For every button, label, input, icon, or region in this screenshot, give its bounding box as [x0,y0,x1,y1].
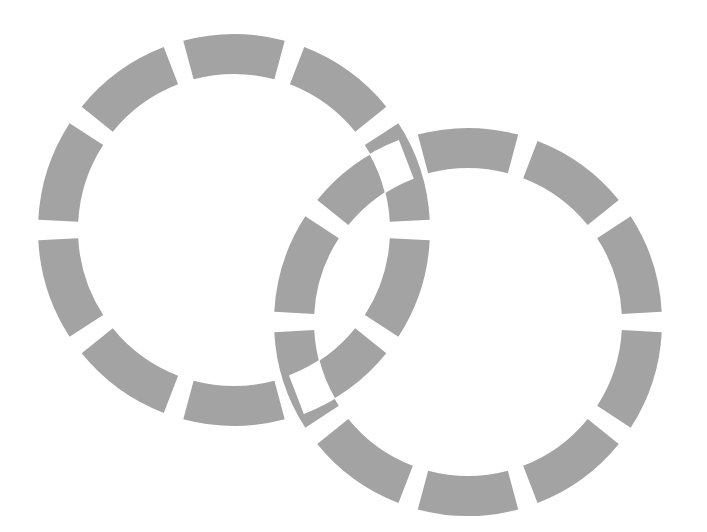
circle-left-dash-10 [82,47,178,132]
circle-right-dash-5 [523,419,619,503]
dashed-circle-right [274,128,661,516]
circle-left-dash-9 [38,123,103,222]
circle-right-dash-1 [418,128,518,173]
overlapping-dashed-circles-diagram [0,0,707,532]
dashed-circle-left [38,34,429,426]
circle-left-dash-1 [183,34,284,79]
circle-right-dash-3 [597,216,662,314]
circle-left-dash-2 [290,47,386,132]
circle-right-dash-9 [274,216,339,314]
circle-right-dash-6 [418,471,518,516]
circle-left-dash-7 [82,328,178,413]
circle-left-dash-6 [183,381,284,426]
circle-left-dash-4 [365,238,430,337]
circle-left-dash-8 [38,238,103,337]
circle-right-dash-2 [523,141,619,225]
circle-right-dash-7 [317,419,413,503]
circle-right-dash-4 [597,330,662,428]
